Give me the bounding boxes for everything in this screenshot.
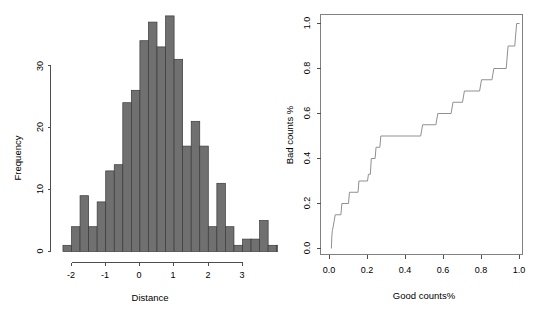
- roc-y-tick-label-0_6: 0.6: [302, 107, 312, 120]
- histogram-bar: [114, 165, 123, 252]
- histogram-svg: 0 10 20 30 -2 -1 0 1 2 3 Distance Freque…: [0, 0, 278, 311]
- histogram-bar: [208, 227, 217, 252]
- roc-y-tick-label-0_0: 0.0: [302, 242, 312, 255]
- roc-x-axis-title: Good counts%: [393, 290, 456, 301]
- histogram-bar: [174, 59, 183, 251]
- histogram-x-tick-label-n1: -1: [101, 270, 109, 280]
- roc-x-tick-label-0_4: 0.4: [399, 265, 412, 275]
- roc-curve: [331, 24, 519, 249]
- histogram-y-tick-label-0: 0: [35, 248, 45, 253]
- histogram-y-tick-label-10: 10: [35, 184, 45, 194]
- histogram-bar: [80, 196, 89, 252]
- roc-y-tick-label-0_2: 0.2: [302, 197, 312, 210]
- histogram-bars: [63, 16, 278, 252]
- histogram-x-tick-label-2: 2: [205, 270, 210, 280]
- histogram-x-tick-label-0: 0: [136, 270, 141, 280]
- histogram-x-tick-label-3: 3: [239, 270, 244, 280]
- roc-y-axis-title: Bad counts %: [284, 105, 295, 164]
- roc-svg: 0.0 0.2 0.4 0.6 0.8 1.0 0.0 0.2 0.4 0.6 …: [278, 0, 556, 311]
- histogram-bar: [183, 146, 192, 251]
- histogram-bar: [140, 41, 149, 252]
- histogram-y-tick-label-20: 20: [35, 122, 45, 132]
- roc-plot-frame: [321, 15, 523, 255]
- histogram-bar: [148, 22, 157, 251]
- histogram-bar: [251, 239, 260, 251]
- histogram-bar: [72, 227, 81, 252]
- histogram-bar: [200, 146, 209, 251]
- histogram-bar: [234, 245, 243, 251]
- histogram-bar: [123, 103, 132, 252]
- histogram-y-axis: [48, 66, 51, 252]
- histogram-y-tick-label-30: 30: [35, 61, 45, 71]
- roc-y-tick-label-0_8: 0.8: [302, 62, 312, 75]
- figure-canvas: 0 10 20 30 -2 -1 0 1 2 3 Distance Freque…: [0, 0, 556, 311]
- histogram-bar: [166, 16, 175, 252]
- roc-x-tick-label-0_8: 0.8: [475, 265, 488, 275]
- roc-panel: 0.0 0.2 0.4 0.6 0.8 1.0 0.0 0.2 0.4 0.6 …: [278, 0, 556, 311]
- histogram-bar: [243, 239, 252, 251]
- roc-x-tick-label-0_0: 0.0: [323, 265, 336, 275]
- roc-y-tick-label-0_4: 0.4: [302, 152, 312, 165]
- histogram-panel: 0 10 20 30 -2 -1 0 1 2 3 Distance Freque…: [0, 0, 278, 311]
- roc-y-tick-label-1_0: 1.0: [302, 17, 312, 30]
- histogram-x-axis-title: Distance: [132, 292, 169, 303]
- roc-x-tick-label-0_2: 0.2: [361, 265, 374, 275]
- histogram-bar: [157, 47, 166, 252]
- histogram-y-axis-title: Frequency: [12, 135, 23, 180]
- histogram-bar: [260, 221, 269, 252]
- histogram-x-tick-label-1: 1: [170, 270, 175, 280]
- histogram-bar: [63, 245, 72, 251]
- histogram-bar: [217, 183, 226, 251]
- roc-x-tick-label-1_0: 1.0: [513, 265, 526, 275]
- histogram-bar: [268, 245, 277, 251]
- histogram-bar: [89, 227, 98, 252]
- histogram-x-tick-label-n2: -2: [67, 270, 75, 280]
- roc-x-tick-label-0_6: 0.6: [437, 265, 450, 275]
- histogram-bar: [225, 227, 234, 252]
- histogram-bar: [106, 171, 115, 252]
- histogram-bar: [131, 90, 140, 251]
- histogram-bar: [97, 202, 106, 252]
- histogram-x-axis: [72, 263, 243, 266]
- histogram-bar: [191, 121, 200, 251]
